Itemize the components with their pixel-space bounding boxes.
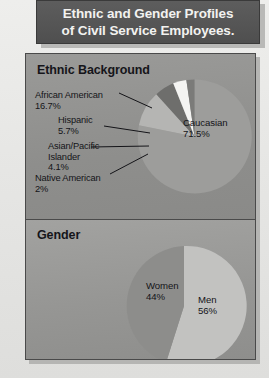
title-banner: Ethnic and Gender Profiles of Civil Serv…: [36, 0, 260, 44]
label-native-american: Native American 2%: [35, 173, 100, 194]
label-men-name: Men: [198, 294, 217, 305]
label-women: Women 44%: [146, 280, 178, 302]
ethnic-background-panel: Ethnic Background: [26, 54, 255, 219]
label-hispanic: Hispanic 5.7%: [58, 115, 92, 136]
label-men: Men 56%: [198, 294, 217, 316]
label-women-value: 44%: [146, 291, 178, 302]
label-women-name: Women: [146, 280, 178, 291]
gender-panel: Gender Women 44% Men 56%: [26, 219, 255, 360]
label-asian-line-2: Islander: [48, 152, 99, 163]
label-hispanic-name: Hispanic: [58, 115, 92, 126]
label-african-american: African American 16.7%: [35, 90, 103, 111]
label-caucasian-name: Caucasian: [183, 117, 227, 128]
gender-pie-svg: [122, 244, 246, 360]
label-asian-line-1: Asian/Pacific: [48, 141, 99, 152]
label-asian-pacific-islander: Asian/Pacific Islander 4.1%: [48, 141, 99, 173]
label-african-american-value: 16.7%: [35, 101, 103, 112]
infographic-card: Ethnic Background: [25, 53, 256, 360]
label-caucasian: Caucasian 71.5%: [183, 117, 227, 139]
label-african-american-name: African American: [35, 90, 103, 101]
title-line-2: of Civil Service Employees.: [62, 22, 235, 39]
label-caucasian-value: 71.5%: [183, 128, 227, 139]
gender-pie-chart: [122, 244, 246, 360]
label-native-american-name: Native American: [35, 173, 100, 184]
gender-section-heading: Gender: [37, 228, 80, 242]
label-asian-value: 4.1%: [48, 162, 99, 173]
label-hispanic-value: 5.7%: [58, 126, 92, 137]
label-men-value: 56%: [198, 305, 217, 316]
title-line-1: Ethnic and Gender Profiles: [63, 5, 234, 22]
label-native-american-value: 2%: [35, 184, 100, 195]
